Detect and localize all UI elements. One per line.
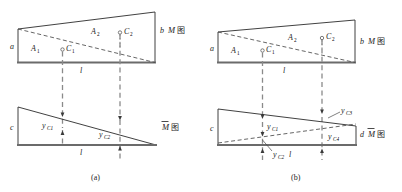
- label-area-a1-b: A 1: [230, 46, 240, 56]
- panel-b-lower-mbar-diagram: [217, 109, 357, 151]
- ordinate-arrow-top-c1-b: [261, 115, 265, 120]
- label-yc1-sub-b: C1: [272, 126, 278, 132]
- figure-root: a b M 图 A 1 A 2 C 1: [0, 0, 402, 192]
- label-area-a1-sub-a: 1: [37, 48, 40, 54]
- ordinate-arrow-top-c2-a: [118, 116, 122, 121]
- label-ordinate-b-right-b: b: [360, 37, 364, 46]
- m-diagram-outline-a: [18, 12, 155, 63]
- centroid-marker-c1-b: [261, 49, 264, 52]
- label-ordinate-yc2-b: y C2: [272, 150, 284, 160]
- label-mbar-cjk-a: 图: [171, 123, 179, 132]
- label-yc1-letter-b: y: [266, 122, 271, 131]
- label-area-a1-letter-a: A: [30, 44, 36, 53]
- label-ordinate-d-right-b: d: [360, 130, 365, 139]
- label-span-l-upper-a: l: [80, 66, 83, 75]
- label-ordinate-c-left-b: c: [210, 124, 214, 133]
- label-centroid-c2-sub-b: 2: [332, 36, 335, 42]
- panel-a-lower-mbar-diagram: [17, 107, 157, 145]
- ordinate-arrow-mid-c1-b: [261, 132, 265, 137]
- label-ordinate-yc1-a: y C1: [41, 121, 53, 131]
- label-yc2-sub-a: C2: [104, 134, 110, 140]
- label-area-a2-sub-a: 2: [97, 31, 100, 37]
- label-ordinate-yc4-b: y C4: [327, 132, 339, 142]
- label-centroid-c1-sub-b: 1: [272, 49, 275, 55]
- ordinate-arrow-bottom-c1-b: [261, 149, 265, 154]
- ordinate-arrow-top-c2-b: [320, 110, 324, 115]
- centroid-marker-c2-b: [320, 36, 323, 39]
- label-mbar-letter-a: M: [161, 122, 170, 132]
- centroid-marker-c1-a: [61, 48, 64, 51]
- panel-a: a b M 图 A 1 A 2 C 1: [10, 12, 185, 182]
- label-area-a2-letter-b: A: [287, 33, 293, 42]
- label-mbar-diagram-a: M 图: [161, 122, 179, 133]
- label-area-a1-sub-b: 1: [237, 50, 240, 56]
- label-ordinate-a-left-b: a: [210, 44, 214, 53]
- mechanics-diagram-svg: a b M 图 A 1 A 2 C 1: [0, 0, 402, 192]
- label-m-diagram-b: M: [367, 36, 376, 46]
- panel-b-labels: a b M 图 A 1 A 2 C 1 C 2: [210, 32, 385, 182]
- label-area-a2-letter-a: A: [90, 27, 96, 36]
- label-centroid-c2-b: C 2: [326, 32, 335, 42]
- label-m-diagram-cjk-a: 图: [177, 26, 185, 35]
- label-yc2-letter-a: y: [98, 130, 103, 139]
- label-ordinate-a-left: a: [10, 42, 14, 51]
- label-ordinate-b-right: b: [160, 26, 164, 35]
- label-area-a2-sub-b: 2: [294, 37, 297, 43]
- label-yc1-sub-a: C1: [47, 125, 53, 131]
- label-yc4-sub-b: C4: [333, 136, 339, 142]
- ordinate-arrow-bottom-c2-a: [118, 146, 122, 151]
- label-mbar-diagram-b: M 图: [367, 129, 385, 140]
- panel-b-projection-lines: [261, 40, 324, 160]
- ordinate-arrow-top-c1-a: [61, 113, 65, 118]
- panel-caption-a: (a): [91, 173, 100, 182]
- label-centroid-c1-sub-a: 1: [72, 48, 75, 54]
- label-m-diagram-cjk-b: 图: [377, 37, 385, 46]
- label-centroid-c2-sub-a: 2: [130, 31, 133, 37]
- label-yc2-letter-b: y: [272, 150, 277, 159]
- label-area-a2-a: A 2: [90, 27, 100, 37]
- label-yc3-letter-b: y: [340, 106, 345, 115]
- label-centroid-c2-a: C 2: [124, 27, 133, 37]
- mbar-diagram-outline-a: [18, 107, 156, 145]
- label-area-a1-a: A 1: [30, 44, 40, 54]
- centroid-marker-c2-a: [118, 31, 121, 34]
- label-span-l-lower-a: l: [80, 148, 83, 157]
- label-ordinate-yc3-b: y C3: [340, 106, 352, 116]
- panel-b: a b M 图 A 1 A 2 C 1 C 2: [210, 20, 385, 182]
- label-mbar-letter-b: M: [367, 129, 376, 139]
- label-yc4-letter-b: y: [327, 132, 332, 141]
- area-split-diagonal-a: [18, 29, 155, 63]
- panel-a-projection-lines: [61, 34, 122, 160]
- label-yc2-sub-b: C2: [278, 154, 284, 160]
- ordinate-arrow-bottom-c1-a: [61, 131, 65, 136]
- label-ordinate-c-left: c: [10, 123, 14, 132]
- label-span-l-lower-b: l: [289, 150, 292, 159]
- label-span-l-upper-b: l: [283, 66, 286, 75]
- panel-a-upper-m-diagram: [17, 12, 156, 63]
- label-yc1-letter-a: y: [41, 121, 46, 130]
- label-m-diagram-a: M: [167, 25, 176, 35]
- label-yc3-sub-b: C3: [346, 110, 352, 116]
- label-area-a1-letter-b: A: [230, 46, 236, 55]
- label-centroid-c1-b: C 1: [266, 45, 275, 55]
- label-area-a2-b: A 2: [287, 33, 297, 43]
- panel-caption-b: (b): [291, 173, 301, 182]
- label-mbar-cjk-b: 图: [377, 130, 385, 139]
- label-centroid-c1-a: C 1: [66, 44, 75, 54]
- label-ordinate-yc1-b: y C1: [266, 122, 278, 132]
- ordinate-arrow-bottom-c2-b: [320, 149, 324, 154]
- leader-line-yc3-b: [328, 112, 340, 118]
